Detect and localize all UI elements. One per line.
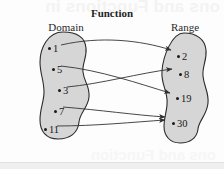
node-dot-icon xyxy=(54,110,57,113)
page-bottom-strip xyxy=(0,162,224,169)
mapping-diagram-svg xyxy=(0,0,224,169)
range-element-8: 8 xyxy=(179,68,189,80)
domain-element-1: 1 xyxy=(48,42,58,54)
node-dot-icon xyxy=(58,89,61,92)
domain-element-7: 7 xyxy=(54,105,64,117)
node-dot-icon xyxy=(177,55,180,58)
node-dot-icon xyxy=(52,68,55,71)
node-dot-icon xyxy=(176,97,179,100)
node-dot-icon xyxy=(172,122,175,125)
node-dot-icon xyxy=(44,128,47,131)
domain-element-5: 5 xyxy=(52,63,62,75)
range-element-19: 19 xyxy=(176,92,192,104)
domain-element-11: 11 xyxy=(44,123,59,135)
node-dot-icon xyxy=(179,73,182,76)
domain-element-3: 3 xyxy=(58,84,68,96)
range-element-2: 2 xyxy=(177,50,187,62)
range-element-30: 30 xyxy=(172,117,188,129)
diagram-page: ons and Functions in Function Domain Ran… xyxy=(0,0,224,169)
node-dot-icon xyxy=(48,47,51,50)
